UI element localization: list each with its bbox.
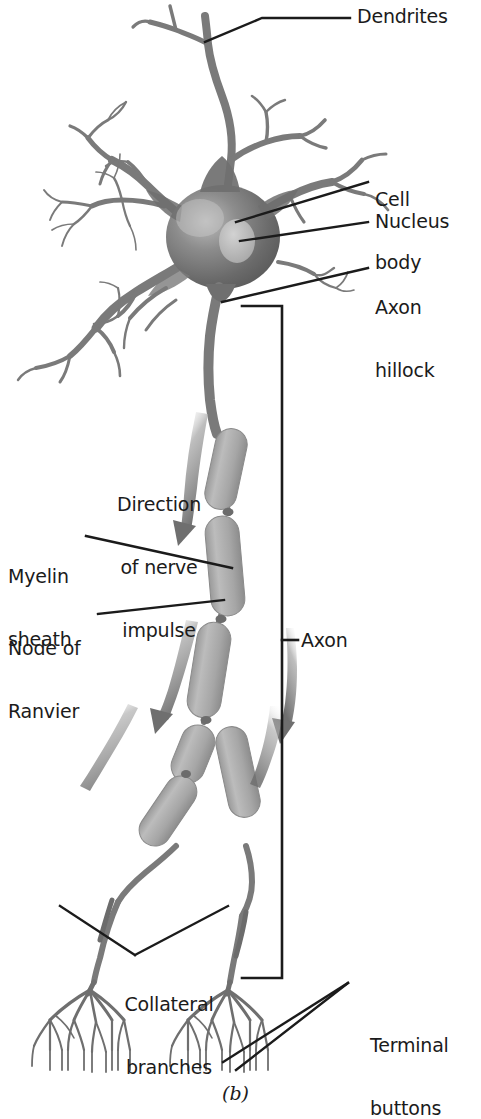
label-axon-hillock-line1: Axon [375, 297, 435, 318]
label-cell-body-line1: Cell [375, 189, 421, 210]
leader-collateral-left [60, 906, 135, 955]
label-axon-hillock-line2: hillock [375, 360, 435, 381]
figure-caption: (b) [222, 1082, 249, 1104]
label-axon: Axon [301, 630, 348, 651]
label-nucleus: Nucleus [375, 211, 449, 232]
label-node-line2: Ranvier [8, 701, 81, 722]
cell-body-soma [146, 156, 298, 296]
label-terminal-buttons: Terminal buttons [370, 993, 449, 1119]
label-collateral-branches: Collateral branches [104, 952, 234, 1099]
label-direction-of-nerve-impulse: Direction of nerve impulse [99, 452, 219, 662]
label-terminal-line1: Terminal [370, 1035, 449, 1056]
label-dendrites: Dendrites [357, 6, 448, 27]
leader-collateral-right [135, 906, 228, 955]
label-axon-hillock: Axon hillock [375, 255, 435, 402]
leader-terminal-2 [236, 983, 348, 1070]
label-terminal-line2: buttons [370, 1098, 449, 1119]
leader-dendrites [205, 18, 350, 42]
label-collateral-line1: Collateral [104, 994, 234, 1015]
label-myelin-line1: Myelin [8, 566, 72, 587]
label-direction-line2: of nerve [99, 557, 219, 578]
label-collateral-line2: branches [104, 1057, 234, 1078]
label-direction-line3: impulse [99, 620, 219, 641]
leader-terminal-1 [223, 983, 348, 1062]
label-direction-line1: Direction [99, 494, 219, 515]
nucleus-shape [219, 219, 255, 263]
label-node-of-ranvier: Node of Ranvier [8, 596, 81, 743]
label-node-line1: Node of [8, 638, 81, 659]
